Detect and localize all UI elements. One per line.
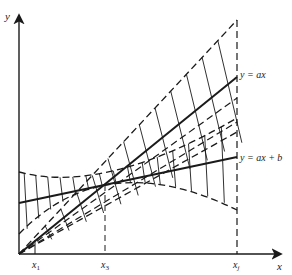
line-y-equals-ax bbox=[19, 77, 237, 254]
hatch-line bbox=[221, 127, 224, 203]
hatch-line bbox=[36, 175, 39, 218]
hatch-line bbox=[60, 177, 63, 201]
hatch-line bbox=[202, 57, 224, 151]
tick-label-x1: x1 bbox=[31, 259, 40, 272]
tick-label-xj: xj bbox=[232, 259, 239, 272]
ax-lower-bound bbox=[19, 132, 237, 254]
hatch-line bbox=[205, 136, 208, 196]
ax-inner-lower-bound bbox=[19, 122, 237, 254]
hatch-line bbox=[157, 157, 160, 184]
hatch-line bbox=[48, 177, 51, 210]
hatch-line bbox=[186, 74, 207, 160]
hatch-line bbox=[124, 142, 139, 196]
x-axis-label: x bbox=[276, 260, 282, 272]
regression-confidence-diagram: y x x1 x3 xj y = ax y = ax + b bbox=[0, 0, 292, 275]
ax-upper-bound bbox=[19, 20, 237, 254]
ax-inner-upper-bound bbox=[19, 98, 237, 254]
confidence-band-hatching-ax-b bbox=[24, 127, 224, 229]
label-y-equals-ax: y = ax bbox=[239, 69, 266, 80]
label-y-equals-ax-plus-b: y = ax + b bbox=[239, 152, 282, 163]
y-axis-label: y bbox=[4, 10, 10, 22]
tick-label-x3: x3 bbox=[100, 259, 109, 272]
hatch-line bbox=[155, 108, 173, 178]
hatch-line bbox=[173, 151, 176, 187]
